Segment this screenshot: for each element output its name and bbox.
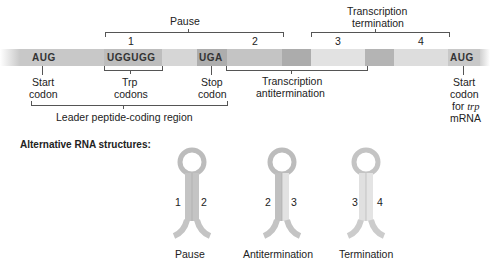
stop-codon-label-1: Stop — [201, 76, 223, 88]
antitermination-structure-label: Antitermination — [243, 248, 313, 260]
antitermination-hairpin-icon — [262, 146, 302, 238]
termination-left-number: 3 — [352, 196, 358, 208]
trp-start-label-4: mRNA — [450, 112, 481, 124]
termination-bracket — [311, 32, 450, 37]
trailing-fade — [480, 49, 490, 66]
leader-bracket — [31, 101, 228, 106]
region-4-segment — [394, 49, 448, 66]
termination-hairpin-icon — [346, 146, 386, 238]
termination-structure-label: Termination — [339, 248, 393, 260]
trp-start-pointer — [463, 66, 464, 75]
stop-codon-pointer — [211, 66, 212, 75]
pause-bracket-tick — [188, 29, 189, 32]
antitermination-right-number: 3 — [291, 196, 297, 208]
antitermination-bracket — [226, 66, 368, 71]
antitermination-label-1: Transcription — [262, 75, 322, 87]
trp-codons-bracket — [104, 66, 163, 71]
termination-bracket-label-2: termination — [352, 17, 404, 29]
termination-bracket-tick — [375, 29, 376, 32]
stop-codon-label-2: codon — [198, 88, 227, 100]
spacer-segment — [162, 49, 197, 66]
termination-bracket-label-1: Transcription — [347, 5, 407, 17]
antitermination-label-2: antitermination — [256, 87, 325, 99]
start-codon-label-1: Start — [32, 76, 54, 88]
region-2-dark — [282, 49, 311, 66]
alt-structures-heading: Alternative RNA structures: — [20, 139, 151, 150]
leader-bracket-label: Leader peptide-coding region — [56, 111, 193, 123]
region-2-segment — [227, 49, 282, 66]
region-3-dark — [365, 49, 394, 66]
region-3-segment — [311, 49, 365, 66]
termination-right-number: 4 — [377, 196, 383, 208]
trp-codons-label-1: Trp — [122, 76, 137, 88]
antitermination-left-number: 2 — [265, 196, 271, 208]
leader-fade — [0, 49, 20, 66]
trp-codons-text: UGGUGG — [107, 50, 156, 65]
start-codon-text: AUG — [32, 50, 56, 65]
start-codon-pointer — [42, 66, 43, 75]
stop-codon-text: UGA — [199, 50, 223, 65]
pause-hairpin-icon — [172, 146, 212, 238]
start-codon-label-2: codon — [29, 88, 58, 100]
trp-start-label-2: codon — [450, 88, 479, 100]
trp-codons-label-2: codons — [114, 88, 148, 100]
pause-right-number: 2 — [201, 196, 207, 208]
pause-left-number: 1 — [175, 196, 181, 208]
pause-bracket-label: Pause — [170, 15, 200, 27]
trp-start-codon-text: AUG — [450, 50, 474, 65]
pause-structure-label: Pause — [175, 248, 205, 260]
trp-start-label-1: Start — [453, 76, 475, 88]
leader-bracket-tick — [123, 106, 124, 109]
pause-bracket — [105, 32, 284, 37]
trp-codons-tick — [130, 71, 131, 74]
antitermination-bracket-tick — [291, 71, 292, 74]
